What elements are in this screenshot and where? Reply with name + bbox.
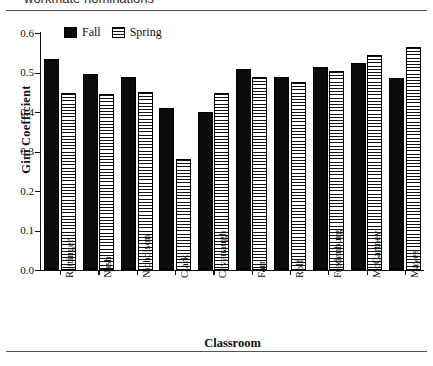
x-tick-mark	[213, 270, 214, 275]
top-divider	[6, 10, 427, 11]
x-tick-mark	[137, 270, 138, 275]
plot-area	[41, 33, 424, 270]
x-tick-mark	[252, 270, 253, 275]
x-category-label: Farr	[256, 261, 267, 279]
bar-fall-rettinger	[44, 59, 59, 270]
y-tick-mark	[35, 270, 40, 271]
x-category-label: Clark	[179, 255, 190, 278]
legend-label-spring: Spring	[130, 26, 162, 38]
x-tick-mark	[367, 270, 368, 275]
bar-fall-mayes	[389, 78, 404, 270]
y-tick-mark	[35, 33, 40, 34]
bar-fall-nicholson	[121, 77, 136, 270]
bar-spring-farr	[252, 77, 267, 270]
x-tick-mark	[98, 270, 99, 275]
x-category-label: McCartney	[371, 231, 382, 278]
legend-swatch-fall-icon	[64, 27, 77, 38]
x-tick-mark	[405, 270, 406, 275]
legend-item-spring: Spring	[112, 26, 162, 38]
chart-legend: Fall Spring	[64, 26, 162, 38]
x-category-label: Nash	[102, 256, 113, 278]
y-axis-title: Gini Coefficient	[19, 70, 34, 190]
x-category-label: Rettinger	[64, 239, 75, 278]
y-tick-mark	[35, 231, 40, 232]
bar-spring-mayes	[406, 47, 421, 270]
x-category-label: Rolf	[294, 259, 305, 278]
y-tick-mark	[35, 112, 40, 113]
bar-spring-clark	[176, 159, 191, 270]
bottom-divider	[6, 351, 427, 352]
legend-item-fall: Fall	[64, 26, 101, 38]
bar-fall-clark	[159, 108, 174, 270]
y-tick-mark	[35, 191, 40, 192]
bar-fall-nash	[83, 74, 98, 270]
bar-spring-nash	[99, 94, 114, 270]
y-tick-mark	[35, 73, 40, 74]
bar-fall-rolf	[274, 77, 289, 270]
y-tick-mark	[35, 152, 40, 153]
legend-swatch-spring-icon	[112, 27, 125, 38]
x-tick-mark	[175, 270, 176, 275]
x-tick-mark	[290, 270, 291, 275]
y-tick-label: 0.1	[8, 225, 34, 236]
x-category-label: Nicholson	[141, 235, 152, 278]
bar-fall-farr	[236, 69, 251, 270]
x-tick-mark	[60, 270, 61, 275]
y-tick-label: 0.6	[8, 28, 34, 39]
page-caption: workmate nominations	[24, 0, 154, 6]
legend-label-fall: Fall	[82, 26, 101, 38]
x-category-label: Fredenburg	[332, 230, 343, 278]
page-caption-clip: workmate nominations	[0, 0, 433, 9]
x-tick-mark	[328, 270, 329, 275]
y-tick-label: 0.0	[8, 265, 34, 276]
bar-spring-rolf	[291, 82, 306, 270]
x-category-label: Mayes	[409, 250, 420, 278]
bar-fall-mccartney	[351, 63, 366, 270]
x-axis-title: Classroom	[41, 336, 424, 351]
bar-fall-fredenburg	[313, 67, 328, 270]
x-category-label: Cavanaugh	[217, 231, 228, 278]
bar-fall-cavanaugh	[198, 112, 213, 270]
